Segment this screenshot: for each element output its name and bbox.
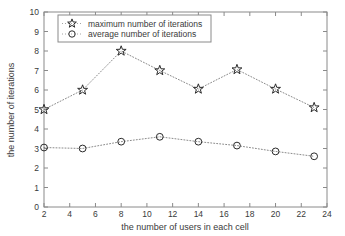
series-average bbox=[41, 133, 318, 159]
series-line bbox=[44, 51, 314, 110]
series-maximum bbox=[39, 46, 319, 114]
y-tick-label: 7 bbox=[34, 66, 39, 76]
y-tick-label: 3 bbox=[34, 144, 39, 154]
x-tick-label: 22 bbox=[297, 209, 307, 219]
x-tick-label: 16 bbox=[219, 209, 229, 219]
x-tick-label: 24 bbox=[322, 209, 332, 219]
x-tick-label: 14 bbox=[194, 209, 204, 219]
chart-svg: 24681012141618202224 012345678910 the nu… bbox=[0, 0, 345, 236]
y-tick-label: 0 bbox=[34, 202, 39, 212]
x-tick-label: 12 bbox=[168, 209, 178, 219]
y-tick-label: 4 bbox=[34, 124, 39, 134]
star-marker bbox=[309, 102, 319, 111]
y-tick-label: 8 bbox=[34, 46, 39, 56]
data-series-layer bbox=[39, 46, 319, 160]
legend[interactable]: maximum number of iterations average num… bbox=[58, 15, 211, 42]
legend-label-average: average number of iterations bbox=[88, 29, 196, 39]
x-axis-title: the number of users in each cell bbox=[121, 222, 249, 232]
y-tick-label: 1 bbox=[34, 183, 39, 193]
y-tick-label: 9 bbox=[34, 27, 39, 37]
x-tick-label: 6 bbox=[93, 209, 98, 219]
star-marker bbox=[193, 84, 203, 93]
figure-canvas: 24681012141618202224 012345678910 the nu… bbox=[0, 0, 345, 236]
x-axis-tick-labels: 24681012141618202224 bbox=[42, 209, 332, 219]
x-tick-label: 4 bbox=[67, 209, 72, 219]
star-marker bbox=[116, 46, 126, 55]
x-tick-label: 18 bbox=[245, 209, 255, 219]
series-line bbox=[44, 137, 314, 157]
y-axis-tick-labels: 012345678910 bbox=[30, 7, 40, 212]
x-tick-label: 10 bbox=[142, 209, 152, 219]
legend-label-maximum: maximum number of iterations bbox=[88, 19, 202, 29]
y-axis-title: the number of iterations bbox=[6, 62, 16, 157]
y-tick-label: 2 bbox=[34, 163, 39, 173]
star-marker bbox=[232, 64, 242, 73]
y-tick-label: 6 bbox=[34, 85, 39, 95]
x-tick-label: 20 bbox=[271, 209, 281, 219]
x-tick-label: 8 bbox=[119, 209, 124, 219]
y-tick-label: 10 bbox=[30, 7, 40, 17]
x-tick-label: 2 bbox=[42, 209, 47, 219]
y-tick-label: 5 bbox=[34, 105, 39, 115]
